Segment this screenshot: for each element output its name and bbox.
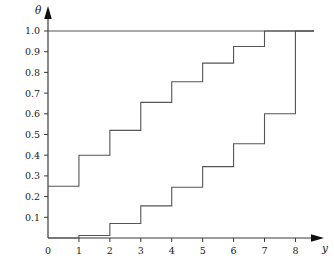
y-tick-label: 0.4 bbox=[25, 150, 40, 161]
y-tick-label: 0.5 bbox=[25, 129, 40, 140]
y-axis-arrow-icon bbox=[44, 6, 52, 19]
y-tick-label: 0.8 bbox=[25, 67, 40, 78]
x-tick-label: 8 bbox=[292, 245, 298, 256]
y-tick-label: 0.7 bbox=[25, 88, 40, 99]
x-tick-label: 5 bbox=[200, 245, 206, 256]
y-tick-label: 1.0 bbox=[25, 25, 40, 36]
x-tick-label: 4 bbox=[169, 245, 175, 256]
x-axis-title: y bbox=[321, 242, 329, 254]
y-tick-label: 0.3 bbox=[25, 170, 40, 181]
x-tick-label: 7 bbox=[261, 245, 267, 256]
y-tick-label: 0.2 bbox=[25, 191, 40, 202]
lower-step-curve bbox=[48, 31, 314, 238]
x-tick-label: 6 bbox=[231, 245, 237, 256]
step-function-chart: θ y 0.10.20.30.40.50.60.70.80.91.0 01234… bbox=[0, 0, 334, 259]
y-tick-label: 0.1 bbox=[25, 212, 40, 223]
x-tick-group: 012345678 bbox=[45, 238, 298, 256]
y-axis-title: θ bbox=[35, 4, 42, 16]
x-tick-label: 0 bbox=[45, 245, 51, 256]
data-series-group bbox=[48, 31, 314, 238]
upper-step-curve bbox=[48, 31, 314, 186]
y-tick-label: 0.9 bbox=[25, 46, 40, 57]
x-tick-label: 1 bbox=[76, 245, 82, 256]
y-tick-label: 0.6 bbox=[25, 108, 40, 119]
y-tick-group: 0.10.20.30.40.50.60.70.80.91.0 bbox=[25, 25, 48, 222]
x-tick-label: 3 bbox=[138, 245, 144, 256]
x-tick-label: 2 bbox=[107, 245, 113, 256]
x-axis-arrow-icon bbox=[311, 234, 324, 241]
plot-canvas: θ y 0.10.20.30.40.50.60.70.80.91.0 01234… bbox=[0, 0, 334, 259]
